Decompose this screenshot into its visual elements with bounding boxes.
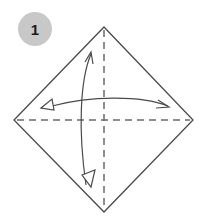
double-arrow-horizontal-icon: [41, 98, 169, 110]
origami-diagram: [0, 0, 210, 224]
